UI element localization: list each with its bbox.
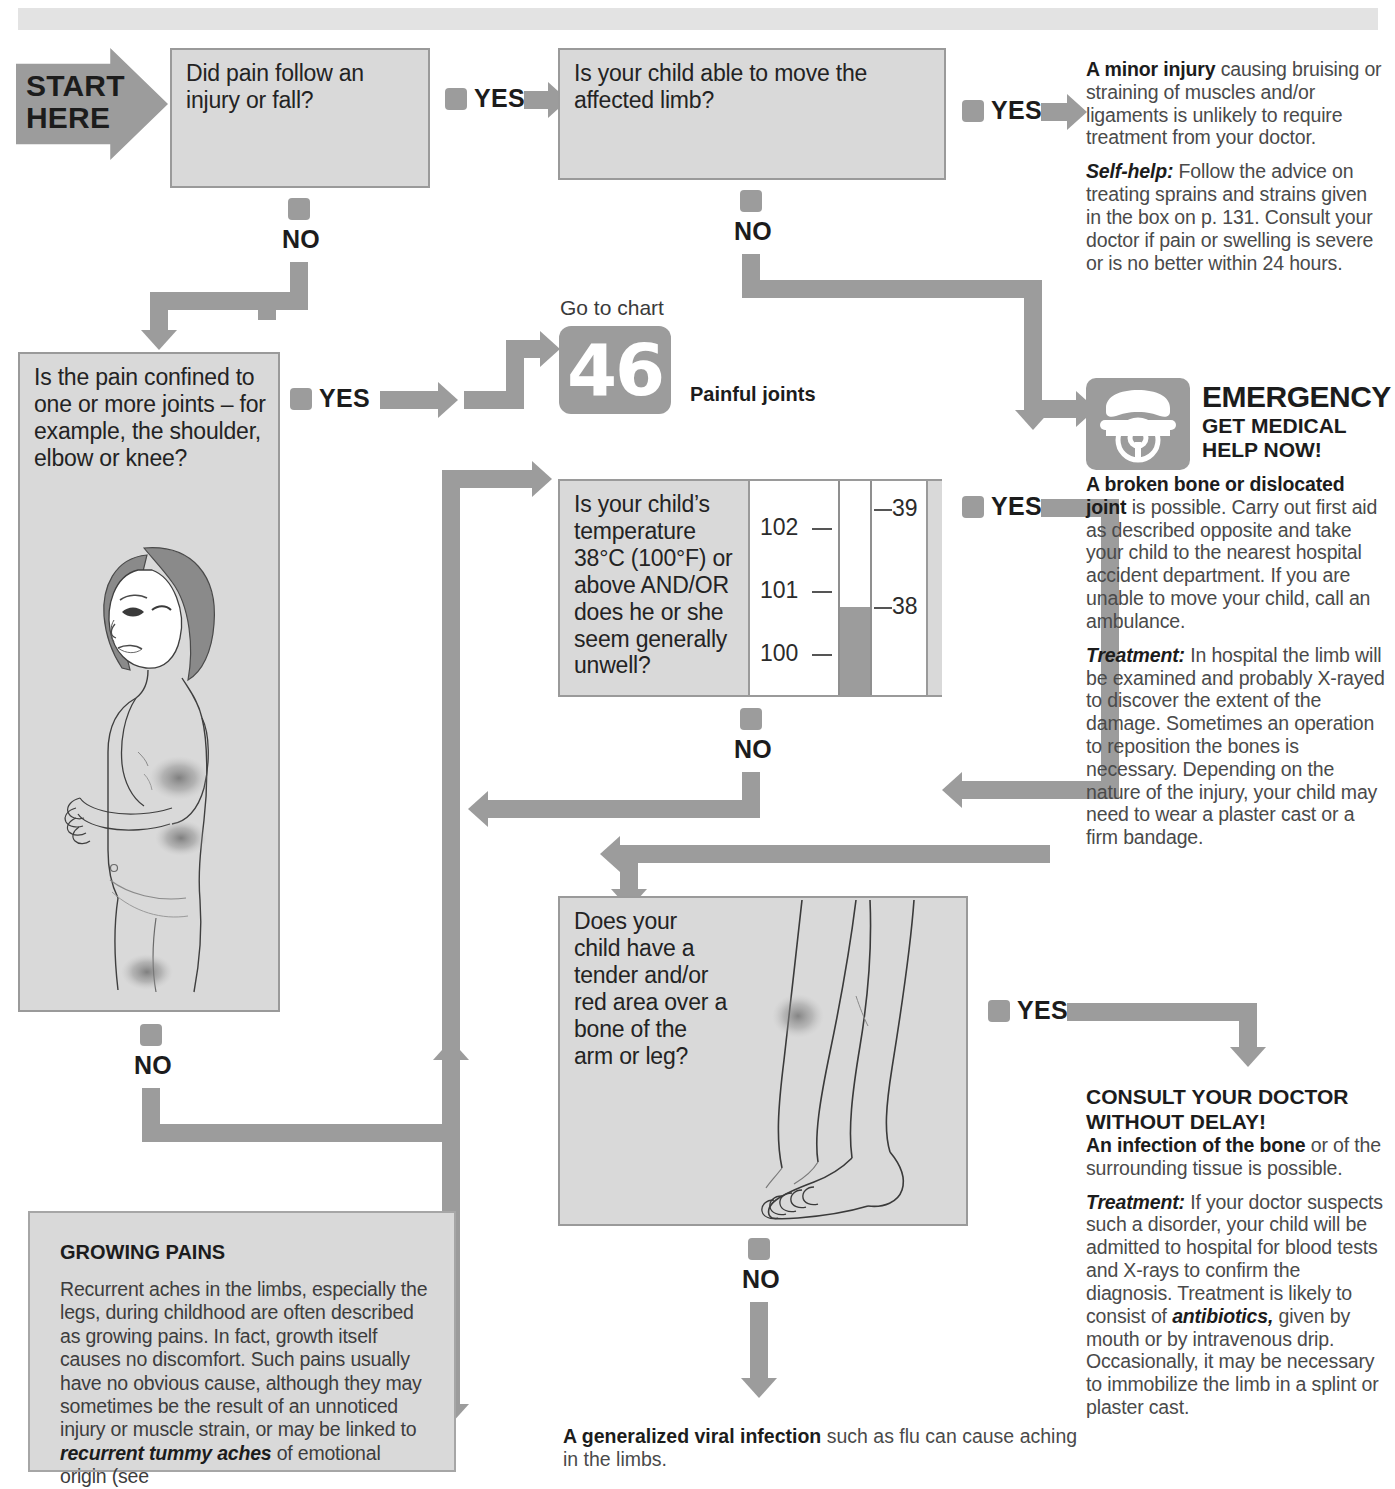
yes-chip-q5 <box>988 1000 1010 1022</box>
connector-merge-drop <box>620 845 638 889</box>
leg-and-foot-illustration <box>760 900 966 1222</box>
growing-pains-title: GROWING PAINS <box>60 1241 428 1264</box>
emergency-para-1: A broken bone or dislocated joint is pos… <box>1086 473 1386 633</box>
yes-chip-q4 <box>962 496 984 518</box>
connector-q5-yes-vert <box>1239 1003 1257 1047</box>
arrowhead-to-chart-46 <box>540 331 560 367</box>
no-chip-q5 <box>748 1238 770 1260</box>
question-text: Does your child have a tender and/or red… <box>560 898 740 1069</box>
yes-chip-q3 <box>290 388 312 410</box>
emergency-body-2: In hospital the limb will be examined an… <box>1086 644 1385 849</box>
connector-q1-yes <box>524 91 548 109</box>
yes-label-q2: YES <box>991 96 1042 125</box>
connector-merge-to-q5 <box>620 845 1050 863</box>
question-text: Is your child’s temperature 38°C (100°F)… <box>560 481 746 679</box>
arrowhead-q5-yes <box>1230 1047 1266 1067</box>
thermometer-illustration: 102 101 100 39 38 <box>748 481 940 695</box>
connector-into-q3-stub <box>258 292 276 320</box>
connector-q2-no-drop <box>1024 280 1042 410</box>
thermometer-f-tickmark-100 <box>812 654 832 656</box>
minor-injury-lead: A minor injury <box>1086 58 1215 80</box>
question-box-injury-or-fall[interactable]: Did pain follow an injury or fall? <box>170 48 430 188</box>
growing-pains-body: Recurrent aches in the limbs, especially… <box>60 1278 428 1489</box>
growing-pains-info-box: GROWING PAINS Recurrent aches in the lim… <box>28 1211 456 1472</box>
thermometer-c-tickmark-38 <box>874 607 892 609</box>
arrowhead-q4-no <box>468 791 488 827</box>
thermometer-f-tickmark-101 <box>812 591 832 593</box>
chart-46-caption: Painful joints <box>690 383 816 406</box>
minor-injury-para-2: Self-help: Follow the advice on treating… <box>1086 160 1386 274</box>
no-label-q2: NO <box>734 217 772 246</box>
viral-lead: A generalized viral infection <box>563 1425 821 1447</box>
consult-para-1: An infection of the bone or of the surro… <box>1086 1134 1386 1180</box>
arrowhead-q3-yes <box>438 382 458 418</box>
start-here-line2: HERE <box>26 102 168 134</box>
no-chip-q2 <box>740 190 762 212</box>
page-header-band <box>18 8 1378 30</box>
start-here-marker: START HERE <box>16 48 168 160</box>
question-text: Is the pain confined to one or more join… <box>20 354 278 472</box>
thermometer-f-tickmark-102 <box>812 528 832 530</box>
connector-q2-yes <box>1041 103 1067 121</box>
thermometer-c-tickmark-39 <box>874 509 892 511</box>
start-here-line1: START <box>26 70 168 102</box>
thermometer-mercury <box>840 607 870 695</box>
connector-q5-no-vert <box>750 1302 768 1378</box>
question-text: Is your child able to move the affected … <box>560 50 944 114</box>
thermometer-c-tick-38: 38 <box>892 593 918 620</box>
arrowhead-q2-yes <box>1067 94 1087 130</box>
yes-chip-q2 <box>962 100 984 122</box>
arrowhead-q1-no <box>141 330 177 350</box>
minor-injury-para-1: A minor injury causing bruising or strai… <box>1086 58 1386 149</box>
consult-lead: An infection of the bone <box>1086 1134 1306 1156</box>
advice-minor-injury: A minor injury causing bruising or strai… <box>1086 58 1386 274</box>
emergency-subtitle-line2: HELP NOW! <box>1202 438 1347 462</box>
spine-q4-left-upper <box>442 503 460 803</box>
connector-into-q4-elbow <box>442 470 460 510</box>
consult-heading-line2: WITHOUT DELAY! <box>1086 1110 1391 1135</box>
thermometer-right-edge <box>926 481 942 695</box>
consult-heading-line1: CONSULT YOUR DOCTOR <box>1086 1085 1391 1110</box>
question-box-able-to-move-limb[interactable]: Is your child able to move the affected … <box>558 48 946 180</box>
emergency-telephone-icon <box>1086 378 1190 470</box>
growing-pains-text-1: Recurrent aches in the limbs, especially… <box>60 1278 427 1440</box>
emergency-subtitle: GET MEDICAL HELP NOW! <box>1202 414 1347 462</box>
child-bruises-illustration <box>52 520 264 1000</box>
no-label-q4: NO <box>734 735 772 764</box>
viral-infection-advice: A generalized viral infection such as fl… <box>563 1425 1083 1472</box>
arrowhead-q5-no <box>741 1378 777 1398</box>
connector-q5-yes-horiz <box>1067 1003 1257 1021</box>
arrowhead-merge-left <box>600 836 620 872</box>
chart-46-badge[interactable]: 46 <box>559 326 671 414</box>
emergency-title: EMERGENCY <box>1202 380 1391 414</box>
emergency-body-1: is possible. Carry out first aid as desc… <box>1086 496 1377 632</box>
goto-chart-label: Go to chart <box>560 296 664 320</box>
yes-label-q4: YES <box>991 492 1042 521</box>
thermometer-tube <box>838 481 872 695</box>
emergency-para-2: Treatment: In hospital the limb will be … <box>1086 644 1386 849</box>
yes-chip-q1 <box>445 88 467 110</box>
connector-q1-no-drop <box>150 292 168 330</box>
no-chip-q1 <box>288 198 310 220</box>
no-chip-q4 <box>740 708 762 730</box>
thermometer-fahrenheit-scale: 102 101 100 <box>750 481 838 695</box>
no-label-q5: NO <box>742 1265 780 1294</box>
connector-step-horiz-high <box>506 340 540 358</box>
growing-pains-italic: recurrent tummy aches <box>60 1442 271 1464</box>
question-text: Did pain follow an injury or fall? <box>172 50 428 114</box>
thermometer-celsius-scale: 39 38 <box>874 481 926 695</box>
consult-doctor-heading: CONSULT YOUR DOCTOR WITHOUT DELAY! <box>1086 1085 1391 1134</box>
no-label-q3: NO <box>134 1051 172 1080</box>
no-chip-q3 <box>140 1024 162 1046</box>
emergency-treatment-lead: Treatment: <box>1086 644 1185 666</box>
connector-q4-no-horiz <box>488 800 760 818</box>
arrowhead-q4-yes-return <box>942 772 962 808</box>
consult-treatment-lead: Treatment: <box>1086 1191 1185 1213</box>
yes-label-q1: YES <box>474 84 525 113</box>
spine-q4-left-lower <box>442 803 460 1083</box>
arrowhead-into-q4 <box>532 461 552 497</box>
self-help-lead: Self-help: <box>1086 160 1173 182</box>
connector-q3-no-horiz <box>142 1124 460 1142</box>
advice-consult-doctor: An infection of the bone or of the surro… <box>1086 1134 1386 1419</box>
thermometer-f-tick-100: 100 <box>760 640 798 667</box>
